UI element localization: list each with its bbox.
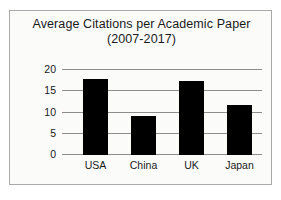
- plot-area: 0 5 10 15 20 USA China UK Japan: [62, 70, 262, 155]
- chart-title: Average Citations per Academic Paper (20…: [10, 17, 273, 46]
- chart-title-subtitle: (2007-2017): [10, 32, 273, 47]
- y-tick-label-20: 20: [44, 63, 56, 75]
- chart-frame: Average Citations per Academic Paper (20…: [9, 10, 272, 185]
- y-tick-label-15: 15: [44, 84, 56, 96]
- bar-usa: [83, 79, 108, 156]
- chart-page: Average Citations per Academic Paper (20…: [0, 0, 281, 200]
- gridline-20: 20: [62, 69, 262, 70]
- y-tick-label-5: 5: [50, 127, 56, 139]
- x-label-japan: Japan: [210, 159, 270, 171]
- bar-uk: [179, 81, 204, 155]
- y-tick-label-0: 0: [50, 148, 56, 160]
- chart-title-main: Average Citations per Academic Paper: [32, 17, 250, 31]
- bar-china: [131, 116, 156, 155]
- y-tick-label-10: 10: [44, 106, 56, 118]
- bar-japan: [227, 105, 252, 155]
